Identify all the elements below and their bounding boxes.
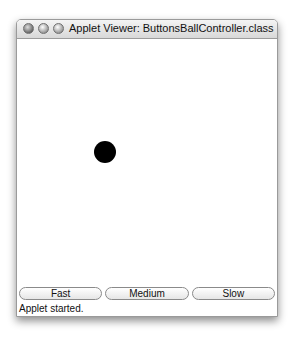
ball [94,141,116,163]
medium-button[interactable]: Medium [105,287,188,300]
fast-button[interactable]: Fast [19,287,102,300]
applet-viewer-window: Applet Viewer: ButtonsBallController.cla… [16,19,278,317]
status-bar: Applet started. [19,303,83,314]
window-title: Applet Viewer: ButtonsBallController.cla… [69,22,274,34]
button-row: Fast Medium Slow [19,287,275,301]
zoom-button-icon[interactable] [53,23,64,34]
slow-button[interactable]: Slow [192,287,275,300]
close-button-icon[interactable] [23,23,34,34]
minimize-button-icon[interactable] [38,23,49,34]
title-bar[interactable]: Applet Viewer: ButtonsBallController.cla… [17,20,277,39]
applet-canvas [17,39,277,286]
